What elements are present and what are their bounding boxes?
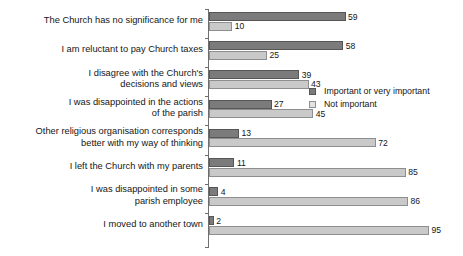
bar-value-label: 10 <box>235 22 245 31</box>
bar-value-label: 58 <box>346 42 356 51</box>
legend-swatch-icon <box>309 88 316 95</box>
bar-important <box>209 70 299 79</box>
axis-tick <box>205 9 208 10</box>
category-label: I disagree with the Church's decisions a… <box>0 68 208 91</box>
legend-label: Not important <box>324 99 377 110</box>
bar-value-label: 72 <box>378 139 388 148</box>
legend-item: Not important <box>309 99 459 110</box>
category-label: I was disappointed in the actions of the… <box>0 97 208 120</box>
bar-not-important <box>209 109 313 118</box>
bar-value-label: 59 <box>348 13 358 22</box>
chart-legend: Important or very importantNot important <box>309 86 459 112</box>
bar-value-label: 25 <box>269 51 279 60</box>
legend-label: Important or very important <box>324 86 430 97</box>
axis-tick <box>205 67 208 68</box>
bar-not-important <box>209 138 376 147</box>
bar-value-label: 13 <box>242 129 252 138</box>
bar-not-important <box>209 80 309 89</box>
category-label-column: The Church has no significance for meI a… <box>0 0 208 256</box>
category-label: The Church has no significance for me <box>0 15 208 27</box>
bar-not-important <box>209 226 429 235</box>
axis-tick <box>205 96 208 97</box>
bar-important <box>209 41 343 50</box>
category-label: I left the Church with my parents <box>0 161 208 173</box>
category-label: Other religious organisation corresponds… <box>0 126 208 149</box>
axis-tick <box>205 38 208 39</box>
bar-important <box>209 216 214 225</box>
horizontal-bar-chart: The Church has no significance for meI a… <box>0 0 463 256</box>
bar-important <box>209 12 346 21</box>
category-label: I am reluctant to pay Church taxes <box>0 44 208 56</box>
bar-important <box>209 100 272 109</box>
bar-value-label: 27 <box>274 100 284 109</box>
bar-value-label: 39 <box>302 71 312 80</box>
bar-value-label: 86 <box>411 197 421 206</box>
axis-tick <box>205 125 208 126</box>
axis-tick <box>205 213 208 214</box>
bar-important <box>209 187 218 196</box>
bar-value-label: 2 <box>216 217 221 226</box>
legend-swatch-icon <box>309 101 316 108</box>
axis-tick <box>205 155 208 156</box>
bar-not-important <box>209 168 406 177</box>
bar-value-label: 11 <box>237 159 246 168</box>
axis-tick-end <box>205 247 208 248</box>
bar-not-important <box>209 22 232 31</box>
bar-value-label: 95 <box>431 226 441 235</box>
bar-important <box>209 158 234 167</box>
category-label: I was disappointed in some parish employ… <box>0 184 208 207</box>
bar-not-important <box>209 197 408 206</box>
category-label: I moved to another town <box>0 219 208 231</box>
bar-important <box>209 129 239 138</box>
axis-tick <box>205 184 208 185</box>
legend-item: Important or very important <box>309 86 459 97</box>
plot-area: 591058253943274513721185486295 <box>208 0 463 256</box>
bar-value-label: 4 <box>221 188 226 197</box>
bar-value-label: 85 <box>408 168 418 177</box>
bar-not-important <box>209 51 267 60</box>
